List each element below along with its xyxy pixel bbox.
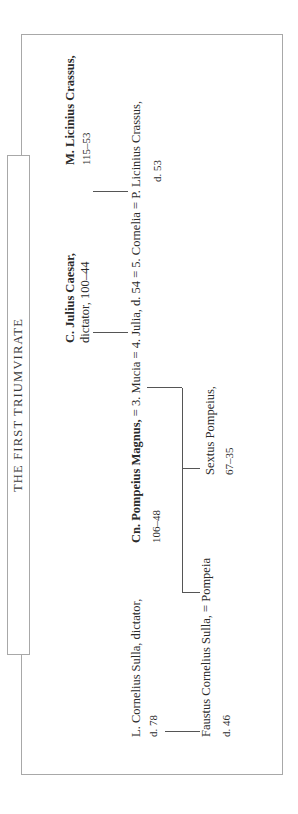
faustus-name: Faustus Cornelius Sulla, = Pompeia bbox=[199, 558, 213, 737]
crassus-name: M. Licinius Crassus, bbox=[63, 55, 77, 165]
sulla-dates: d. 78 bbox=[146, 715, 160, 737]
sulla-to-faustus-line bbox=[165, 731, 200, 732]
sulla-name: L. Cornelius Sulla, dictator, bbox=[129, 599, 143, 737]
faustus-dates: d. 46 bbox=[219, 715, 233, 737]
children-bar bbox=[182, 388, 183, 593]
diagram-title: THE FIRST TRIUMVIRATE bbox=[11, 318, 26, 492]
crassus-dates: 115–53 bbox=[79, 132, 93, 165]
title-tab: THE FIRST TRIUMVIRATE bbox=[7, 155, 30, 655]
diagram-frame bbox=[21, 34, 283, 775]
sextus-name: Sextus Pompeius, bbox=[203, 386, 217, 475]
caesar-name: C. Julius Caesar, bbox=[63, 253, 77, 343]
pompeius-dates: 106–48 bbox=[149, 510, 163, 543]
crassus-to-publius-line bbox=[93, 191, 128, 192]
sextus-dates: 67–35 bbox=[222, 448, 236, 476]
pompeia-branch-line bbox=[182, 592, 200, 593]
sextus-branch-line bbox=[182, 468, 200, 469]
caesar-title: dictator, 100–44 bbox=[78, 262, 92, 343]
diagram-canvas: THE FIRST TRIUMVIRATE L. Cornelius Sulla… bbox=[0, 0, 298, 814]
caesar-to-julia-line bbox=[93, 332, 128, 333]
pompeius-marriages: = 3. Mucia = 4. Julia, d. 54 = 5. Cornel… bbox=[129, 101, 143, 419]
publius-crassus-dates: d. 53 bbox=[150, 160, 164, 182]
mucia-descent-line bbox=[147, 387, 182, 388]
pompeius-line: Cn. Pompeius Magnus, = 3. Mucia = 4. Jul… bbox=[129, 101, 143, 543]
pompeius-name: Cn. Pompeius Magnus, bbox=[129, 419, 143, 543]
